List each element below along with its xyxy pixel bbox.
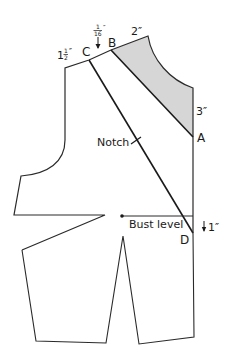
label-1-half-den: 2 [64,54,68,61]
label-neck-width: 2″ [131,25,142,38]
lower-bodice-outline [22,233,194,344]
label-offset-unit: ″ [103,24,106,32]
label-bust-level: Bust level [129,218,183,231]
label-bust-drop: 1″ [208,221,219,234]
label-point-c: C [82,45,90,59]
label-notch: Notch [97,136,129,149]
label-point-b: B [108,36,116,50]
bodice-pattern-diagram: 1 1 2 ″ C B 1 16 ″ 2″ 3″ A Notch Bust le… [0,0,235,357]
label-offset-den: 16 [94,30,102,37]
label-center-drop: 3″ [196,105,207,118]
down-arrow-icon [96,44,101,49]
label-1-half-whole: 1 [57,49,64,62]
label-point-a: A [197,131,206,145]
label-offset-num: 1 [96,23,100,30]
label-point-d: D [180,233,189,247]
label-1-half-num: 1 [64,47,68,54]
bust-point-dot [120,214,124,218]
down-arrow-icon [202,227,206,232]
label-1-half-unit: ″ [69,48,72,57]
